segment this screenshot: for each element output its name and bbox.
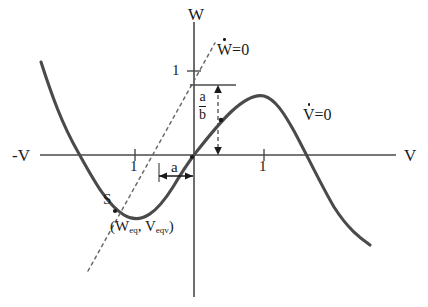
a-arrowhead-right	[185, 172, 193, 179]
x-axis-label-right: V	[404, 147, 416, 164]
ab-arrowhead-up	[214, 85, 222, 93]
v-nullcline-equals-zero: =0	[315, 106, 332, 123]
ab-arrowhead-down	[214, 147, 222, 155]
v-dot-accent-letter: V	[303, 107, 315, 123]
x-axis-label-left: -V	[12, 147, 30, 164]
a-over-b-fraction: a b	[199, 90, 206, 122]
fraction-numerator: a	[199, 90, 206, 105]
a-offset-intersection-dot	[190, 155, 194, 159]
equilibrium-coordinates-label: (Weq, Veqv)	[110, 219, 174, 234]
equilibrium-subscript-eq: eq	[129, 225, 138, 235]
equilibrium-open-paren-w: (W	[110, 218, 129, 234]
saddle-point-label: S	[103, 192, 111, 207]
w-nullcline-dashed-line	[88, 43, 215, 271]
w-nullcline-equals-zero: =0	[232, 41, 249, 58]
x-tick-label-left-1: 1	[130, 159, 138, 174]
equilibrium-close-paren: )	[169, 218, 174, 234]
x-tick-label-right-1: 1	[259, 159, 267, 174]
equilibrium-comma-v: , V	[138, 218, 156, 234]
a-offset-label: a	[171, 160, 178, 175]
w-dot-accent-letter: W	[217, 42, 232, 58]
fraction-denominator: b	[199, 108, 206, 123]
equilibrium-subscript-eqv: eqv	[156, 225, 169, 235]
v-nullcline-label: V=0	[303, 107, 332, 123]
phase-plane-plot	[0, 0, 428, 307]
y-axis-label: W	[188, 6, 204, 23]
figure-container: W V -V 1 1 1 W=0 V=0 a a b S (Weq, Veqv)	[0, 0, 428, 307]
y-tick-label-1: 1	[172, 63, 180, 78]
ab-curve-intersection-dot	[219, 118, 224, 123]
saddle-point-dot	[113, 209, 117, 213]
w-nullcline-label: W=0	[217, 42, 249, 58]
a-arrowhead-left	[159, 172, 167, 179]
